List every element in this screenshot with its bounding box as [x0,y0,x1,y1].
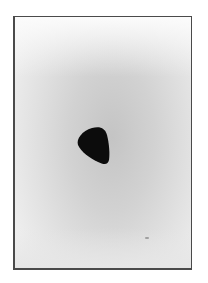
sky-haze-bottom [15,228,191,268]
faint-caption [60,1,150,9]
dark-object [72,125,114,167]
dust-speck [145,237,149,239]
sky-haze-top [15,17,191,77]
photo-frame [13,16,192,270]
